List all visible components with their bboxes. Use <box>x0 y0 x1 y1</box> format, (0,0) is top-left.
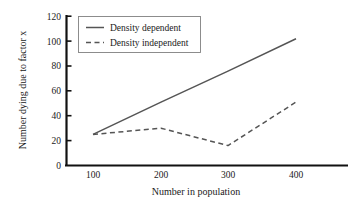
x-axis-title: Number in population <box>152 186 240 197</box>
y-tick-label-60: 60 <box>52 86 62 96</box>
line-chart: 120 100 80 60 40 20 0 100 200 300 400 Nu… <box>0 0 354 206</box>
legend-label-density-independent: Density independent <box>110 38 189 48</box>
y-tick-label-120: 120 <box>47 12 62 22</box>
y-tick-label-0: 0 <box>56 161 61 171</box>
x-tick-label-100: 100 <box>86 170 101 180</box>
y-tick-label-20: 20 <box>52 136 62 146</box>
y-axis-title: Number dying due to factor x <box>17 31 28 150</box>
chart-figure: 120 100 80 60 40 20 0 100 200 300 400 Nu… <box>0 0 354 206</box>
legend-label-density-dependent: Density dependent <box>110 23 181 33</box>
y-tick-label-40: 40 <box>52 111 62 121</box>
x-tick-label-200: 200 <box>154 170 169 180</box>
y-tick-label-80: 80 <box>52 61 62 71</box>
x-tick-label-400: 400 <box>289 170 304 180</box>
y-tick-label-100: 100 <box>47 37 62 47</box>
x-tick-label-300: 300 <box>221 170 236 180</box>
